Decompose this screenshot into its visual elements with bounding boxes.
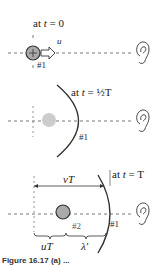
time-label-3: at t = T bbox=[112, 169, 144, 180]
panel-2 bbox=[8, 85, 132, 157]
time-label-1: at t = 0 bbox=[33, 18, 64, 29]
ear-icon bbox=[137, 110, 149, 131]
distance-label: vT bbox=[63, 174, 74, 185]
source-circle-faded bbox=[42, 113, 56, 127]
brace-lambda bbox=[66, 233, 106, 239]
wave-label-2b: #2 bbox=[72, 222, 81, 231]
velocity-arrow-icon bbox=[41, 47, 55, 59]
time-label-2: at t = ½T bbox=[71, 87, 111, 98]
brace-uT bbox=[34, 233, 66, 239]
ear-icon bbox=[137, 203, 149, 224]
wave-label-3: #1 bbox=[110, 220, 119, 229]
wave-label-2: #1 bbox=[79, 133, 88, 142]
uT-label: uT bbox=[41, 241, 53, 252]
wavelength-label: λ′ bbox=[81, 241, 88, 252]
panel-1 bbox=[8, 35, 132, 68]
wave-label-1: #1 bbox=[37, 61, 46, 70]
figure-caption: Figure 16.17 (a) ... bbox=[2, 256, 70, 265]
velocity-label: u bbox=[57, 37, 62, 46]
ear-icon bbox=[137, 42, 149, 63]
source-circle bbox=[56, 205, 70, 219]
